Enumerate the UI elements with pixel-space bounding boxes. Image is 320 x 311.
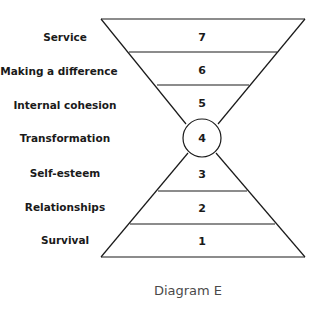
level-6-label: Making a difference bbox=[0, 65, 117, 77]
level-7-number: 7 bbox=[198, 31, 206, 44]
hourglass-diagram: 7 6 5 4 3 2 1 Service Making a differenc… bbox=[0, 0, 320, 311]
diagram-caption: Diagram E bbox=[154, 283, 222, 298]
level-5-number: 5 bbox=[198, 97, 206, 110]
level-3-number: 3 bbox=[198, 168, 206, 181]
lower-left-edge bbox=[101, 153, 188, 257]
level-4-label: Transformation bbox=[20, 132, 110, 144]
level-6-number: 6 bbox=[198, 64, 206, 77]
level-5-label: Internal cohesion bbox=[13, 99, 116, 111]
lower-right-edge bbox=[216, 153, 305, 257]
upper-right-edge bbox=[218, 19, 305, 124]
level-7-label: Service bbox=[43, 31, 87, 43]
level-1-number: 1 bbox=[198, 235, 206, 248]
level-2-number: 2 bbox=[198, 202, 206, 215]
level-4-number: 4 bbox=[198, 132, 206, 145]
level-3-label: Self-esteem bbox=[30, 167, 101, 179]
level-2-label: Relationships bbox=[25, 201, 105, 213]
level-1-label: Survival bbox=[41, 234, 89, 246]
